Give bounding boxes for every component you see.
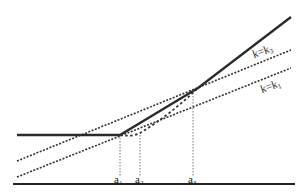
label-a3: a3 — [188, 173, 197, 187]
label-a1: a1 — [114, 173, 123, 187]
solid-function — [17, 17, 291, 135]
label-a2: a2 — [135, 173, 144, 187]
line-k1 — [17, 68, 291, 177]
diagram: a1 a2 a3 k=k3 k=k1 — [0, 0, 308, 195]
line-k3 — [17, 50, 291, 161]
